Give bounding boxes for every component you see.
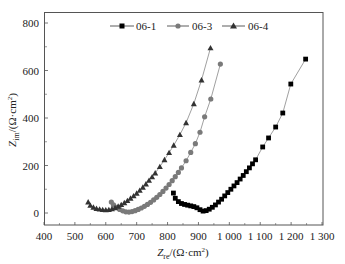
chart-svg: 4005006007008009001 0001 1001 2001 300 0…	[0, 0, 345, 264]
circle-marker-icon	[188, 150, 193, 155]
square-marker-icon	[288, 82, 293, 87]
circle-marker-icon	[173, 174, 178, 179]
square-marker-icon	[280, 111, 285, 116]
series-line-06-1	[173, 59, 305, 211]
y-tick-label: 800	[23, 17, 40, 29]
circle-marker-icon	[183, 158, 188, 163]
square-marker-icon	[260, 145, 265, 150]
triangle-marker-icon	[191, 101, 197, 106]
triangle-marker-icon	[199, 77, 205, 82]
square-marker-icon	[120, 24, 125, 29]
legend: 06-1 06-3 06-4	[110, 20, 269, 32]
circle-marker-icon	[218, 61, 223, 66]
x-tick-label: 500	[67, 230, 84, 242]
y-axis-label: Zim/(Ω·cm2)	[6, 93, 21, 147]
plot-series	[85, 45, 308, 215]
triangle-marker-icon	[183, 120, 189, 125]
triangle-marker-icon	[152, 170, 158, 175]
y-tick-label: 200	[23, 160, 40, 172]
x-tick-label: 1 100	[248, 230, 273, 242]
triangle-marker-icon	[171, 142, 177, 147]
x-tick-label: 1 200	[279, 230, 304, 242]
triangle-marker-icon	[161, 157, 167, 162]
square-marker-icon	[171, 191, 176, 196]
legend-label: 06-4	[248, 20, 269, 32]
triangle-marker-icon	[177, 132, 183, 137]
x-tick-label: 400	[36, 230, 53, 242]
legend-item-06-4: 06-4	[222, 20, 269, 32]
x-tick-label: 900	[190, 230, 207, 242]
triangle-marker-icon	[157, 164, 163, 169]
series-line-06-4	[88, 48, 210, 210]
circle-marker-icon	[197, 130, 202, 135]
x-tick-label: 1 000	[217, 230, 242, 242]
plot-frame	[45, 13, 324, 226]
y-tick-label: 400	[23, 112, 40, 124]
circle-marker-icon	[176, 170, 181, 175]
x-tick-label: 600	[98, 230, 115, 242]
square-marker-icon	[273, 125, 278, 130]
square-marker-icon	[266, 136, 271, 141]
square-marker-icon	[303, 57, 308, 62]
circle-marker-icon	[193, 141, 198, 146]
x-tick-label: 800	[159, 230, 176, 242]
circle-marker-icon	[208, 96, 213, 101]
x-tick-label: 700	[128, 230, 145, 242]
triangle-marker-icon	[207, 45, 213, 50]
triangle-marker-icon	[166, 150, 172, 155]
legend-label: 06-3	[192, 20, 213, 32]
x-axis-label: Zre/(Ω·cm2)	[157, 246, 209, 261]
y-tick-label: 0	[34, 207, 40, 219]
circle-marker-icon	[175, 23, 180, 28]
x-tick-label: 1 300	[310, 230, 335, 242]
legend-item-06-1: 06-1	[110, 20, 156, 32]
triangle-marker-icon	[230, 23, 237, 29]
square-marker-icon	[253, 157, 258, 162]
y-tick-label: 600	[23, 65, 40, 77]
nyquist-chart: 4005006007008009001 0001 1001 2001 300 0…	[0, 0, 345, 264]
circle-marker-icon	[202, 114, 207, 119]
legend-label: 06-1	[136, 20, 156, 32]
circle-marker-icon	[179, 165, 184, 170]
legend-item-06-3: 06-3	[167, 20, 213, 32]
